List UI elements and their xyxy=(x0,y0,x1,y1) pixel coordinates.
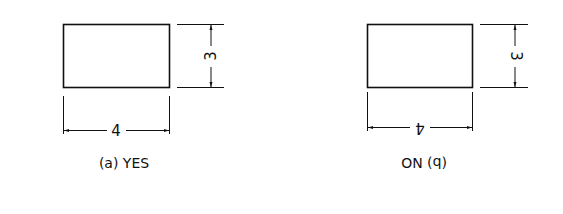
width-dimension-text-b: 4 xyxy=(415,119,425,137)
dimensioning-diagram: 3 4 (a) YES 3 4 (b) NO xyxy=(0,0,563,214)
width-dimension-text-a: 4 xyxy=(111,122,121,140)
rectangle-b xyxy=(368,25,473,88)
figure-b: 3 4 (b) NO xyxy=(368,25,529,172)
height-dimension-text-a: 3 xyxy=(202,51,220,61)
rectangle-a xyxy=(64,25,170,88)
caption-a: (a) YES xyxy=(99,155,149,171)
caption-b: (b) NO xyxy=(401,155,447,171)
height-dimension-text-b: 3 xyxy=(507,51,525,61)
figure-a: 3 4 (a) YES xyxy=(64,25,225,172)
